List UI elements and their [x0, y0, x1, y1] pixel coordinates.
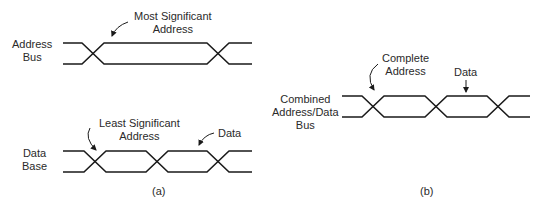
- msa-arrow: [112, 22, 128, 36]
- data-arrow-a: [199, 133, 214, 145]
- data-bus-waveform: [63, 151, 252, 172]
- lsa-annotation: Least Significant Address: [99, 117, 180, 143]
- address-bus-label-line1: Address: [12, 38, 52, 51]
- lsa-arrow: [88, 128, 96, 150]
- msa-annotation-line2: Address: [134, 23, 212, 36]
- combined-bus-label-line3: Bus: [272, 119, 339, 132]
- data-annotation-a: Data: [218, 127, 241, 140]
- msa-annotation: Most Significant Address: [134, 10, 212, 36]
- lsa-annotation-line2: Address: [99, 130, 180, 143]
- data-bus-label-line1: Data: [22, 147, 47, 160]
- complete-address-line2: Address: [382, 65, 429, 78]
- data-annotation-b: Data: [454, 66, 477, 79]
- caption-a: (a): [152, 185, 165, 198]
- address-bus-waveform: [63, 43, 252, 64]
- msa-annotation-line1: Most Significant: [134, 10, 212, 23]
- lsa-annotation-line1: Least Significant: [99, 117, 180, 130]
- timing-diagram-svg: [0, 0, 542, 206]
- combined-bus-waveform: [342, 96, 530, 117]
- address-bus-label: Address Bus: [12, 38, 52, 64]
- data-bus-label: Data Base: [22, 147, 47, 173]
- combined-bus-label: Combined Address/Data Bus: [272, 93, 339, 132]
- address-bus-label-line2: Bus: [12, 51, 52, 64]
- combined-bus-label-line2: Address/Data: [272, 106, 339, 119]
- caption-b: (b): [420, 185, 433, 198]
- complete-address-arrow: [370, 64, 378, 90]
- complete-address-annotation: Complete Address: [382, 52, 429, 78]
- data-bus-label-line2: Base: [22, 160, 47, 173]
- combined-bus-label-line1: Combined: [272, 93, 339, 106]
- complete-address-line1: Complete: [382, 52, 429, 65]
